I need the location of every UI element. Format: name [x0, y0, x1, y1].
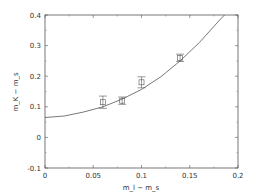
- data-point: [138, 77, 146, 88]
- y-tick-label: -0.1: [27, 165, 41, 173]
- axis-ticks: 00.050.10.150.2-0.100.10.20.30.4: [27, 12, 243, 181]
- x-tick-label: 0.2: [232, 172, 243, 180]
- y-tick-label: 0.3: [30, 42, 41, 50]
- y-tick-label: 0: [37, 134, 41, 142]
- y-tick-label: 0.2: [30, 73, 41, 81]
- x-tick-label: 0.05: [85, 172, 101, 180]
- y-tick-label: 0.4: [30, 12, 42, 20]
- y-tick-label: 0.1: [30, 103, 41, 111]
- x-axis-label: m_l − m_s: [123, 184, 160, 192]
- x-tick-label: 0.1: [136, 172, 147, 180]
- fit-curve: [45, 15, 225, 118]
- fit-line: [45, 15, 225, 118]
- chart: 00.050.10.150.2-0.100.10.20.30.4 m_l − m…: [0, 0, 258, 196]
- data-points: [99, 54, 184, 108]
- x-tick-label: 0: [43, 172, 47, 180]
- data-point: [99, 96, 107, 108]
- plot-axes: [45, 15, 238, 168]
- plot-frame: [45, 15, 238, 168]
- x-tick-label: 0.15: [182, 172, 198, 180]
- y-axis-label: m_K − m_s: [12, 72, 20, 112]
